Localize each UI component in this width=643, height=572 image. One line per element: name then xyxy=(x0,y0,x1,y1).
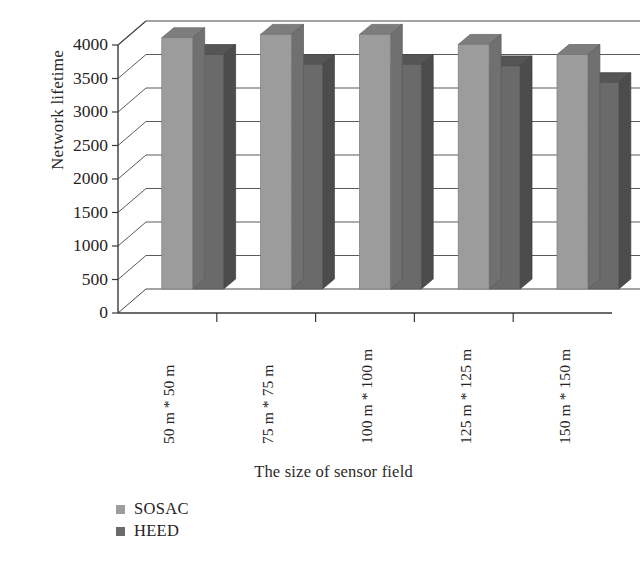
bar xyxy=(557,45,600,290)
x-axis-tick-label: 50 m * 50 m xyxy=(160,365,178,444)
x-axis-tick-label: 150 m * 150 m xyxy=(556,349,574,444)
x-axis-tick-label: 125 m * 125 m xyxy=(457,349,475,444)
x-axis-tick-label: 100 m * 100 m xyxy=(358,349,376,444)
legend-label: HEED xyxy=(134,521,179,541)
x-axis-tick-label: 75 m * 75 m xyxy=(259,365,277,444)
bar xyxy=(261,24,304,289)
x-axis-title: The size of sensor field xyxy=(0,462,643,482)
legend-item: SOSAC xyxy=(116,498,189,520)
plot-area xyxy=(0,0,643,572)
chart-svg xyxy=(0,0,643,572)
legend-swatch-icon xyxy=(116,505,125,514)
legend: SOSACHEED xyxy=(116,498,189,542)
bar xyxy=(359,24,402,289)
legend-item: HEED xyxy=(116,520,189,542)
legend-label: SOSAC xyxy=(134,499,189,519)
x-axis-title-text: The size of sensor field xyxy=(254,462,413,481)
legend-swatch-icon xyxy=(116,527,125,536)
figure: Network lifetime 05001000150020002500300… xyxy=(0,0,643,572)
bar xyxy=(162,28,205,289)
bar xyxy=(458,34,501,289)
